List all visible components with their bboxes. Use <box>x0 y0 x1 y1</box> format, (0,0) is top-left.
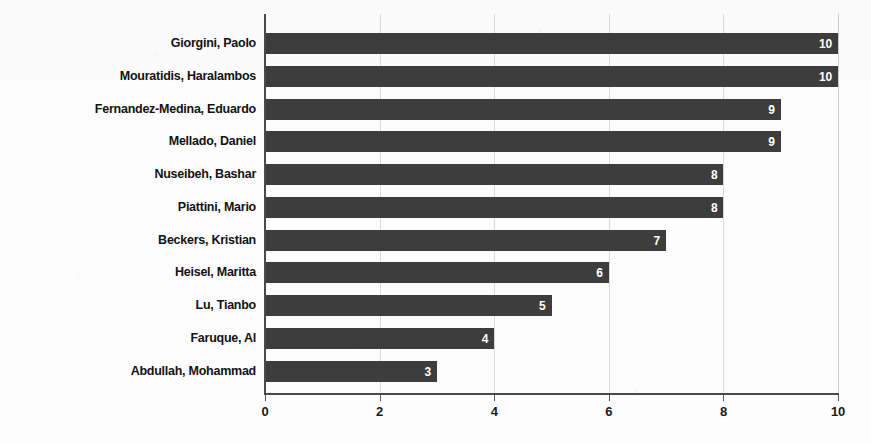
x-axis-line <box>264 393 839 395</box>
x-tick-label: 4 <box>474 404 514 419</box>
bar-value-label: 8 <box>689 168 717 182</box>
x-tick-mark <box>723 395 724 401</box>
bar <box>265 33 838 54</box>
category-label: Beckers, Kristian <box>0 233 256 247</box>
bar <box>265 99 781 120</box>
bar <box>265 295 552 316</box>
x-tick-mark <box>494 395 495 401</box>
bar-value-label: 10 <box>804 70 832 84</box>
x-tick-label: 10 <box>818 404 858 419</box>
category-label: Nuseibeh, Bashar <box>0 167 256 181</box>
category-label: Faruque, Al <box>0 331 256 345</box>
bar-value-label: 5 <box>518 299 546 313</box>
x-tick-mark <box>609 395 610 401</box>
gridline <box>838 14 839 393</box>
bar-value-label: 3 <box>403 365 431 379</box>
bar <box>265 164 723 185</box>
x-tick-mark <box>265 395 266 401</box>
category-label: Abdullah, Mohammad <box>0 364 256 378</box>
y-axis-line <box>264 14 266 395</box>
x-tick-mark <box>380 395 381 401</box>
bar-chart: 0246810 Giorgini, Paolo10Mouratidis, Har… <box>0 0 871 444</box>
category-label: Lu, Tianbo <box>0 298 256 312</box>
bar-value-label: 7 <box>632 234 660 248</box>
x-tick-label: 6 <box>589 404 629 419</box>
x-tick-label: 2 <box>360 404 400 419</box>
category-label: Mellado, Daniel <box>0 134 256 148</box>
category-label: Mouratidis, Haralambos <box>0 69 256 83</box>
bar-value-label: 8 <box>689 201 717 215</box>
bar <box>265 197 723 218</box>
bar <box>265 66 838 87</box>
category-label: Piattini, Mario <box>0 200 256 214</box>
bar <box>265 131 781 152</box>
x-tick-mark <box>838 395 839 401</box>
bar-value-label: 9 <box>747 103 775 117</box>
category-label: Heisel, Maritta <box>0 265 256 279</box>
x-tick-label: 0 <box>245 404 285 419</box>
bar-value-label: 6 <box>575 266 603 280</box>
bar-value-label: 4 <box>460 332 488 346</box>
bar <box>265 262 609 283</box>
category-label: Giorgini, Paolo <box>0 36 256 50</box>
bar-value-label: 9 <box>747 135 775 149</box>
x-tick-label: 8 <box>703 404 743 419</box>
bar-value-label: 10 <box>804 37 832 51</box>
bar <box>265 230 666 251</box>
category-label: Fernandez-Medina, Eduardo <box>0 102 256 116</box>
